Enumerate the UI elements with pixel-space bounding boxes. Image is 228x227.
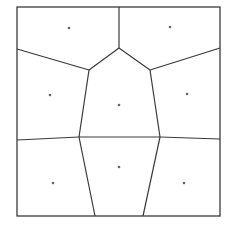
cell-edge [150,48,220,70]
site-point [52,182,55,185]
cell-edge [150,70,160,137]
cell-edge [89,48,119,70]
cell-edges [17,7,220,216]
cell-edge [160,137,220,139]
site-point [183,182,186,185]
site-point [118,104,121,107]
site-point [186,93,189,96]
site-point [49,94,52,97]
cell-edge [119,48,150,70]
cell-edge [17,49,89,70]
site-point [169,26,172,29]
site-point [68,27,71,30]
cell-edge [143,137,160,216]
voronoi-diagram [0,0,228,227]
site-points [49,26,189,185]
site-point [118,166,121,169]
cell-edge [79,70,89,137]
cell-edge [17,137,79,140]
cell-edge [79,137,95,216]
